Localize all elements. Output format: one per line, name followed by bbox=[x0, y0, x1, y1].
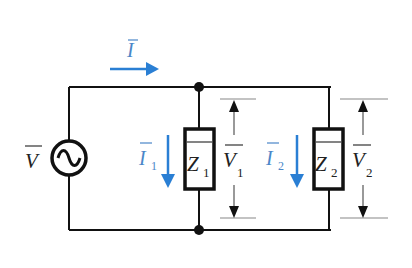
impedance-z2: Z 2 bbox=[314, 129, 343, 189]
i2-label: I bbox=[265, 147, 274, 169]
z1-subscript: 1 bbox=[203, 165, 210, 180]
branch1-current-indicator: I 1 bbox=[138, 135, 175, 188]
z1-label: Z bbox=[187, 152, 199, 176]
main-current-indicator: I bbox=[110, 39, 159, 76]
arrow-down-icon bbox=[290, 174, 304, 188]
impedance-z1: Z 1 bbox=[185, 129, 214, 189]
branch1-voltage-indicator: V 1 bbox=[220, 99, 256, 218]
z2-label: Z bbox=[315, 152, 327, 176]
source-label: V bbox=[25, 146, 42, 173]
arrow-down-icon bbox=[358, 206, 368, 218]
i1-label: I bbox=[138, 147, 147, 169]
circuit-diagram: V I Z 1 Z 2 I 1 I 2 bbox=[0, 0, 412, 268]
v1-label: V bbox=[223, 148, 238, 172]
branch2-voltage-indicator: V 2 bbox=[340, 99, 388, 218]
arrow-down-icon bbox=[161, 174, 175, 188]
arrow-down-icon bbox=[229, 206, 239, 218]
z2-subscript: 2 bbox=[331, 165, 338, 180]
junction-dot-top bbox=[194, 82, 204, 92]
junction-dot-bottom bbox=[194, 225, 204, 235]
ac-source-icon bbox=[52, 141, 86, 175]
arrow-up-icon bbox=[358, 100, 368, 112]
main-current-label: I bbox=[126, 39, 135, 61]
i2-subscript: 2 bbox=[278, 159, 284, 173]
branch2-current-indicator: I 2 bbox=[265, 135, 304, 188]
v2-label: V bbox=[352, 148, 367, 172]
arrow-up-icon bbox=[229, 100, 239, 112]
v2-subscript: 2 bbox=[366, 165, 373, 180]
source-label-text: V bbox=[25, 149, 40, 173]
i1-subscript: 1 bbox=[151, 159, 157, 173]
arrow-right-icon bbox=[146, 62, 159, 76]
v1-subscript: 1 bbox=[237, 165, 244, 180]
